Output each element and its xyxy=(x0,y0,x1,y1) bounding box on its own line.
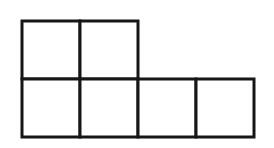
diagram-canvas xyxy=(0,0,274,148)
grid-cell xyxy=(80,79,138,137)
grid-cell xyxy=(196,79,254,137)
grid-cell xyxy=(22,21,80,79)
grid-cell xyxy=(22,79,80,137)
grid-cell xyxy=(80,21,138,79)
grid-cell xyxy=(138,79,196,137)
six-square-figure xyxy=(0,0,274,148)
